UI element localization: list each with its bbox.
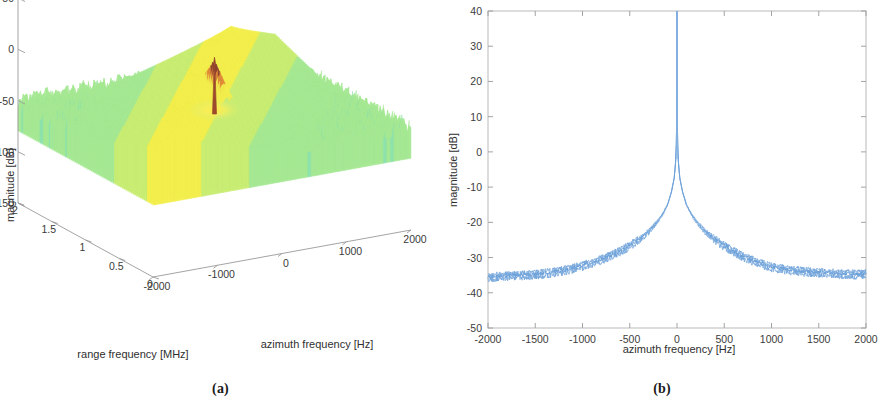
figure-container: 500-50-100-15021.510.50-2000-10000100020… [0,0,883,403]
x-axis-title-azimuth-frequency: azimuth frequency [Hz] [623,343,736,355]
azimuth-frequency-tick-label: 2000 [403,233,427,245]
z-tick-label: 0 [8,43,14,55]
x-tick-label: -1500 [522,333,549,345]
panel-a-3d-surface: 500-50-100-15021.510.50-2000-10000100020… [0,0,441,403]
azimuth-frequency-tick-label: -2000 [144,280,171,292]
y-tick-label: -50 [467,322,482,334]
y-tick-label: 10 [470,111,482,123]
x-tick-label: 2000 [854,333,878,345]
y-tick-label: -40 [467,287,482,299]
y-tick-label: 30 [470,40,482,52]
panel-a-caption: (a) [0,381,441,397]
y-tick-label: 20 [470,75,482,87]
y-tick-label: -10 [467,181,482,193]
y-axis-title-magnitude: magnitude [dB] [447,133,459,207]
range-frequency-tick-label: 1.5 [41,223,56,235]
z-tick-label: 50 [2,0,14,4]
x-axis-title-azimuth-frequency: azimuth frequency [Hz] [261,338,374,350]
x-tick-label: 1500 [807,333,831,345]
y-tick-label: -20 [467,216,482,228]
panel-a-svg: 500-50-100-15021.510.50-2000-10000100020… [0,0,441,370]
y-tick-label: 0 [476,146,482,158]
y-axis-title-range-frequency: range frequency [MHz] [77,348,188,360]
surface-plot [18,26,411,205]
panel-b-line-plot: -2000-1500-1000-500050010001500200040302… [441,0,883,403]
azimuth-frequency-tick-label: 0 [283,257,289,269]
azimuth-frequency-tick-label: 1000 [339,245,363,257]
panel-b-svg: -2000-1500-1000-500050010001500200040302… [441,0,883,370]
x-tick-label: 1000 [760,333,784,345]
y-tick-label: -30 [467,252,482,264]
x-tick-label: -1000 [569,333,596,345]
z-tick-label: -50 [0,95,14,107]
axis-tick-labels-2d: -2000-1500-1000-500050010001500200040302… [467,5,878,345]
azimuth-frequency-tick-label: -1000 [208,268,235,280]
panel-b-caption: (b) [441,381,883,397]
range-frequency-tick-label: 0.5 [109,260,124,272]
z-axis-title-magnitude: magnitude [dB] [4,148,16,222]
spectrum-curve [488,11,866,282]
y-tick-label: 40 [470,5,482,17]
x-tick-label: -2000 [475,333,502,345]
range-frequency-tick-label: 1 [80,241,86,253]
